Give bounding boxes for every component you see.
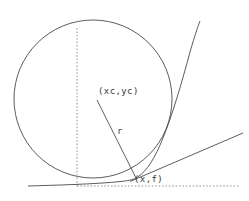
radius-line — [97, 100, 136, 178]
diagram-canvas: (xc,yc) r (x,f) — [0, 0, 249, 201]
tangent-point-label: (x,f) — [134, 174, 163, 184]
radius-label: r — [117, 126, 123, 136]
function-curve — [28, 21, 200, 186]
diagram-graphics — [0, 0, 249, 201]
center-label: (xc,yc) — [98, 86, 139, 96]
circle-shape — [14, 20, 172, 178]
